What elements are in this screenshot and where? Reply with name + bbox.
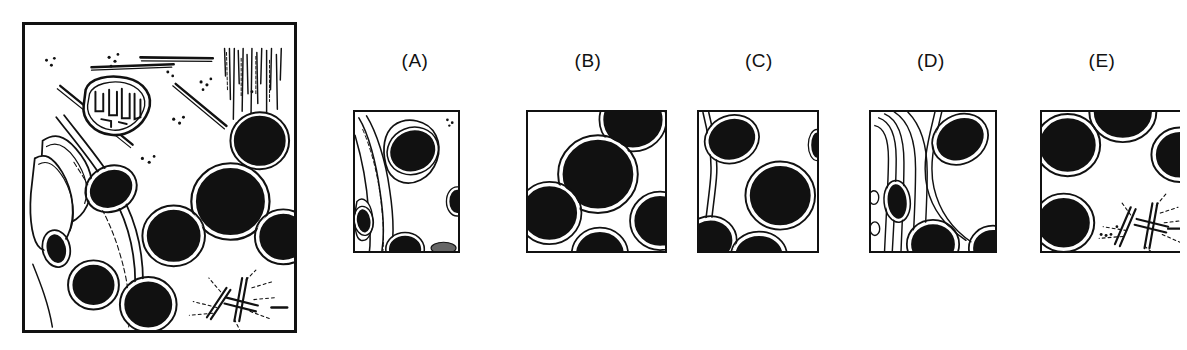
option-label-a: (A) [340,50,490,72]
option-panel-d[interactable]: (D) [856,50,1006,260]
figure-root: (A) [0,0,1187,350]
option-c-drawing [699,112,817,251]
option-label-b: (B) [513,50,663,72]
option-d-drawing [871,112,995,251]
option-panels-row: (A) [340,50,1187,265]
option-a-drawing [355,112,458,251]
option-label-e: (E) [1027,50,1177,72]
option-b-drawing [528,112,665,251]
reference-cell-micrograph [22,22,297,333]
option-box-d[interactable] [869,110,997,253]
reference-micrograph-drawing [25,25,294,330]
option-box-e[interactable] [1040,110,1180,253]
option-box-c[interactable] [697,110,819,253]
option-e-drawing [1042,112,1180,251]
option-panel-c[interactable]: (C) [684,50,834,260]
option-label-d: (D) [856,50,1006,72]
option-panel-b[interactable]: (B) [513,50,663,260]
option-box-a[interactable] [353,110,460,253]
option-panel-e[interactable]: (E) [1027,50,1177,260]
option-box-b[interactable] [526,110,667,253]
option-label-c: (C) [684,50,834,72]
option-panel-a[interactable]: (A) [340,50,490,260]
